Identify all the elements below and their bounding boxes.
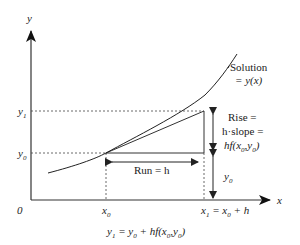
origin-label: 0 — [17, 204, 23, 216]
y0-height-label: y0 — [223, 170, 233, 185]
x1-label: x1 = x0 + h — [200, 204, 250, 219]
tangent-line — [106, 111, 204, 153]
solution-label-line1: Solution — [230, 61, 268, 73]
rise-label-line1: Rise = — [228, 111, 257, 123]
y0-label: y0 — [17, 147, 27, 162]
rise-label-line2: h·slope = — [222, 125, 263, 137]
euler-formula: y1 = y0 + hf(x0,y0) — [106, 225, 185, 240]
y1-label: y1 — [17, 105, 26, 120]
solution-curve — [48, 54, 237, 173]
x-axis-label: x — [276, 194, 282, 206]
euler-method-diagram: y x 0 y1 y0 x0 x1 = x0 + h Solution = y(… — [0, 0, 300, 245]
solution-label-line2: = y(x) — [235, 74, 263, 87]
x0-label: x0 — [101, 204, 111, 219]
y-axis-label: y — [26, 12, 32, 24]
run-label: Run = h — [134, 164, 170, 176]
rise-label-line3: hf(x0,y0) — [224, 139, 260, 154]
